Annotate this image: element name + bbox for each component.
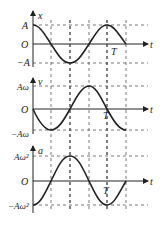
velocity-panel: v t Aω O −Aω T <box>11 76 153 139</box>
t-axis-label: t <box>150 176 153 187</box>
bottom-value-label: −A <box>17 57 31 68</box>
y-axis-label: a <box>38 145 43 156</box>
origin-label: O <box>21 39 28 50</box>
top-value-label: A <box>21 20 29 31</box>
y-axis-label: x <box>37 10 43 21</box>
shm-graphs-figure: x t A O −A T v t Aω O −Aω T a t Aω² O −A… <box>0 0 165 225</box>
top-value-label: Aω² <box>13 152 29 162</box>
acceleration-panel: a t Aω² O −Aω² T <box>8 145 153 213</box>
velocity-curve <box>33 86 126 130</box>
top-value-label: Aω <box>16 82 29 92</box>
t-axis-label: t <box>150 104 153 115</box>
displacement-panel: x t A O −A T <box>17 10 153 68</box>
origin-label: O <box>21 176 28 187</box>
period-label: T <box>103 185 110 196</box>
bottom-value-label: −Aω <box>11 129 29 139</box>
y-axis-label: v <box>38 76 43 87</box>
bottom-value-label: −Aω² <box>8 201 29 211</box>
t-axis-label: t <box>150 39 153 50</box>
origin-label: O <box>21 104 28 115</box>
period-label: T <box>111 46 118 57</box>
